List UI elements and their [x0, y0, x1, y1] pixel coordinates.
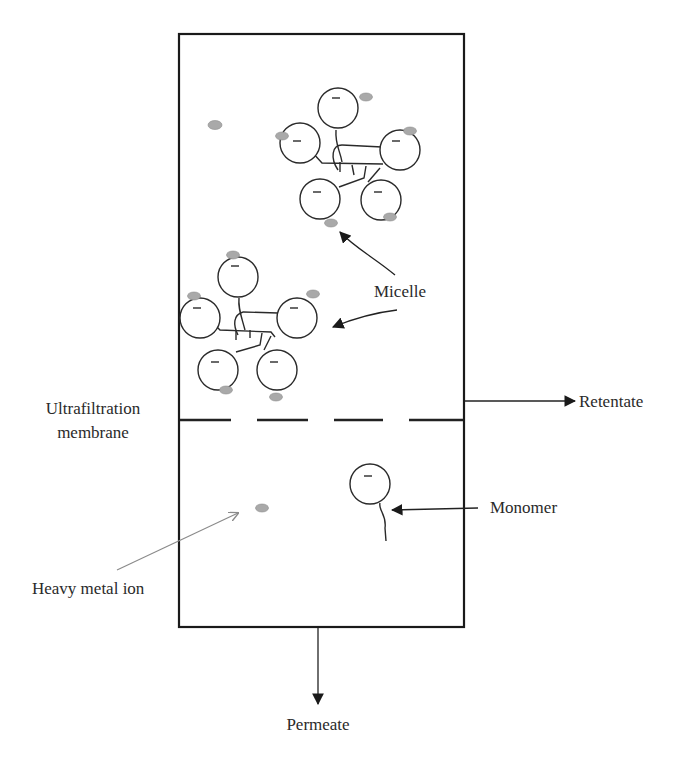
membrane-label-line1: Ultrafiltration	[46, 399, 141, 418]
surfactant-head	[218, 257, 258, 297]
membrane-label-line2: membrane	[57, 423, 129, 442]
bound-metal-ion	[276, 132, 289, 140]
heavy-metal-ion-pointer	[117, 513, 238, 570]
surfactant-head	[300, 179, 340, 219]
upper-micelle	[276, 88, 421, 227]
micelle-pointer-upper	[340, 232, 395, 275]
bound-metal-ion	[227, 251, 240, 259]
bound-metal-ion	[307, 290, 320, 298]
surfactant-head	[318, 88, 358, 128]
diagram-canvas: Micelle Ultrafiltration membrane Retenta…	[0, 0, 686, 762]
surfactant-head	[361, 180, 401, 220]
lower-micelle	[180, 251, 320, 401]
monomer	[350, 464, 390, 541]
free-metal-ion	[208, 121, 222, 130]
bound-metal-ion	[325, 219, 338, 227]
bound-metal-ion	[404, 127, 417, 135]
surfactant-head	[198, 350, 238, 390]
permeate-metal-ion	[256, 504, 269, 512]
bound-metal-ion	[360, 93, 373, 101]
surfactant-head	[277, 298, 317, 338]
bound-metal-ion	[220, 386, 233, 394]
bound-metal-ion	[188, 292, 201, 300]
micelle-pointer-lower	[333, 310, 397, 327]
surfactant-head	[380, 130, 420, 170]
bound-metal-ion	[270, 393, 283, 401]
monomer-label: Monomer	[490, 498, 557, 517]
bound-metal-ion	[384, 213, 397, 221]
surfactant-head	[180, 298, 220, 338]
heavy-metal-ion-label: Heavy metal ion	[32, 579, 145, 598]
surfactant-head	[280, 123, 320, 163]
micelle-label: Micelle	[374, 282, 426, 301]
retentate-label: Retentate	[579, 392, 643, 411]
permeate-label: Permeate	[286, 715, 349, 734]
surfactant-head	[257, 350, 297, 390]
